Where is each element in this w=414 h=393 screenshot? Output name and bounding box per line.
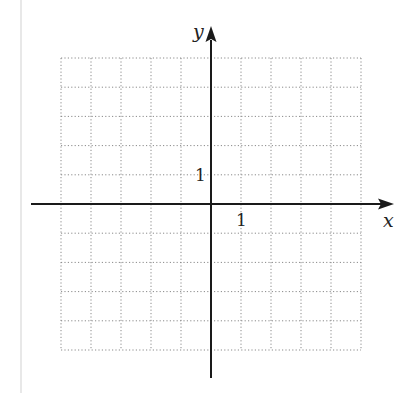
y-axis-label: y (192, 20, 204, 42)
y-tick-label-1: 1 (195, 165, 206, 185)
x-axis-label: x (383, 209, 394, 231)
x-tick-label-1: 1 (236, 210, 247, 230)
coordinate-plane: x y 1 1 (0, 0, 414, 393)
y-axis-arrow-icon (206, 26, 217, 42)
